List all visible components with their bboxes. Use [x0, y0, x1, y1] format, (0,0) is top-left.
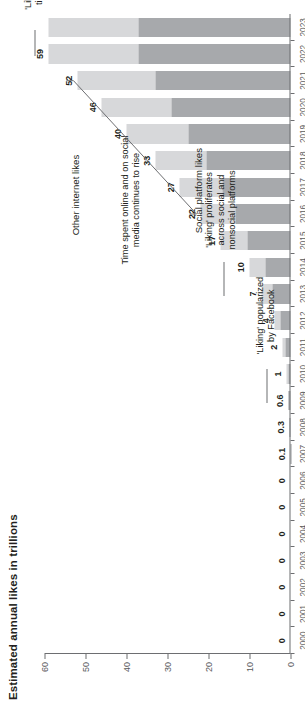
- category-axis-spine: [289, 14, 290, 654]
- annotation-leader-proliferates: [223, 262, 224, 296]
- annotation-liking-popularized-facebook: 'Liking' popularized by Facebook: [254, 261, 276, 371]
- bar-value-label: 0: [276, 558, 286, 563]
- value-axis-label: 20: [203, 662, 213, 672]
- category-axis-tick: [290, 386, 294, 387]
- bar-value-label: 0: [276, 638, 286, 643]
- annotation-leader-300-trillion: [34, 30, 35, 56]
- bar-segment-social: [247, 231, 290, 250]
- bar-value-label: 0: [276, 611, 286, 616]
- category-axis-tick: [290, 173, 294, 174]
- category-axis-tick: [290, 466, 294, 467]
- bar-value-label: 0: [276, 531, 286, 536]
- bar-segment-other: [48, 18, 138, 37]
- bar-value-label: 0.6: [274, 394, 284, 407]
- bar-value-label: 0.1: [276, 448, 286, 461]
- value-axis-label: 40: [121, 662, 131, 672]
- category-axis-label: 2007: [298, 445, 305, 463]
- category-axis-tick: [290, 40, 294, 41]
- category-axis-tick: [290, 333, 294, 334]
- category-axis-tick: [290, 653, 294, 654]
- category-axis-label: 2019: [298, 125, 305, 143]
- category-axis-tick: [290, 253, 294, 254]
- value-axis-tick: [44, 654, 45, 659]
- value-axis-label: 50: [80, 662, 90, 672]
- bar-value-label: 0: [276, 585, 286, 590]
- category-axis-tick: [290, 146, 294, 147]
- value-axis-label: 60: [39, 662, 49, 672]
- category-axis-tick: [290, 573, 294, 574]
- category-axis-tick: [290, 600, 294, 601]
- category-axis-tick: [290, 93, 294, 94]
- category-axis-label: 2011: [298, 339, 305, 357]
- bar-value-label: 0: [276, 505, 286, 510]
- category-axis-tick: [290, 306, 294, 307]
- value-axis-label: 10: [244, 662, 254, 672]
- chart-canvas: Estimated annual likes in trillions 0102…: [0, 0, 305, 708]
- value-axis-tick: [126, 654, 127, 659]
- category-axis-tick: [290, 413, 294, 414]
- category-axis-tick: [290, 360, 294, 361]
- category-axis-label: 2018: [298, 152, 305, 170]
- category-axis-label: 2001: [298, 605, 305, 623]
- value-axis-tick: [167, 654, 168, 659]
- category-axis-label: 2005: [298, 498, 305, 516]
- value-axis-tick: [290, 654, 291, 659]
- bar-value-label: 59: [34, 49, 44, 59]
- category-axis-label: 2008: [298, 418, 305, 436]
- value-axis-tick: [85, 654, 86, 659]
- bar-value-label: 0: [276, 478, 286, 483]
- category-axis-label: 2010: [298, 365, 305, 383]
- category-axis-tick: [290, 440, 294, 441]
- annotation-leader-facebook: [266, 369, 267, 403]
- category-axis-tick: [290, 120, 294, 121]
- chart-title: Estimated annual likes in trillions: [6, 514, 18, 700]
- bar-segment-other: [282, 338, 285, 357]
- category-axis-tick: [290, 280, 294, 281]
- category-axis-label: 2009: [298, 392, 305, 410]
- table-row[interactable]: [48, 44, 290, 63]
- category-axis-tick: [290, 493, 294, 494]
- category-axis-label: 2021: [298, 72, 305, 90]
- value-axis-tick: [208, 654, 209, 659]
- annotation-like-pressed-300-trillion: 'Like' pressed 300+ trillion times since…: [22, 0, 44, 32]
- category-axis-label: 2013: [298, 285, 305, 303]
- category-axis-label: 2006: [298, 472, 305, 490]
- category-axis-label: 2014: [298, 258, 305, 276]
- value-axis-label: 0: [285, 662, 295, 667]
- annotation-leader-time-spent: [63, 71, 206, 224]
- value-axis-tick: [249, 654, 250, 659]
- category-axis-label: 2017: [298, 178, 305, 196]
- category-axis-label: 2016: [298, 205, 305, 223]
- category-axis-tick: [290, 520, 294, 521]
- category-axis-tick: [290, 546, 294, 547]
- bar-segment-other: [48, 44, 138, 63]
- table-row[interactable]: [48, 18, 290, 37]
- category-axis-label: 2015: [298, 232, 305, 250]
- annotation-liking-proliferates: 'Liking' proliferates across social and …: [203, 154, 237, 266]
- category-axis-tick: [290, 226, 294, 227]
- bar-segment-social: [235, 204, 290, 223]
- category-axis-label: 2003: [298, 552, 305, 570]
- category-axis-label: 2012: [298, 312, 305, 330]
- value-axis-label: 30: [162, 662, 172, 672]
- category-axis-tick: [290, 200, 294, 201]
- category-axis-label: 2004: [298, 525, 305, 543]
- category-axis-label: 2002: [298, 578, 305, 596]
- bar-segment-social: [138, 18, 290, 37]
- category-axis-label: 2023: [298, 18, 305, 36]
- category-axis-tick: [290, 626, 294, 627]
- category-axis-label: 2000: [298, 632, 305, 650]
- bar-segment-social: [138, 44, 290, 63]
- bar-value-label: 0.3: [275, 421, 285, 434]
- category-axis-label: 2022: [298, 45, 305, 63]
- category-axis-tick: [290, 66, 294, 67]
- bar-value-label: 1: [272, 371, 282, 376]
- category-axis-label: 2020: [298, 98, 305, 116]
